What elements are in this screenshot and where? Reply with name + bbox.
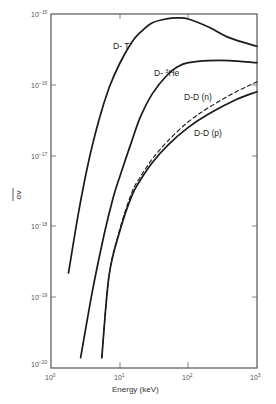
svg-text:10−20: 10−20: [31, 359, 47, 368]
y-tick-labels: 10−15 10−16 10−17 10−18 10−19 10−20: [31, 9, 47, 368]
label-d-t: D- T: [113, 41, 129, 51]
x-axis-title: Energy (keV): [112, 385, 159, 394]
svg-text:10−17: 10−17: [31, 151, 47, 160]
y-axis-title: σv: [13, 188, 23, 201]
curve-d-d-n: [102, 82, 257, 358]
fusion-reactivity-chart: 10−15 10−16 10−17 10−18 10−19 10−20 100 …: [0, 0, 276, 404]
label-d-d-n: D-D (n): [184, 92, 212, 102]
x-tick-labels: 100 101 102 103: [45, 372, 261, 381]
curve-d-t: [69, 18, 258, 273]
svg-text:10−16: 10−16: [31, 80, 47, 89]
svg-text:100: 100: [45, 372, 56, 381]
svg-text:10−18: 10−18: [31, 221, 47, 230]
svg-text:10−15: 10−15: [31, 9, 47, 18]
label-d-d-p: D-D (p): [194, 128, 222, 138]
curve-d-d-p: [102, 92, 257, 358]
curve-d-3he: [81, 60, 257, 357]
svg-text:10−19: 10−19: [31, 292, 47, 301]
svg-text:102: 102: [182, 372, 193, 381]
svg-text:103: 103: [250, 372, 261, 381]
svg-text:σv: σv: [14, 191, 23, 200]
svg-text:101: 101: [114, 372, 125, 381]
